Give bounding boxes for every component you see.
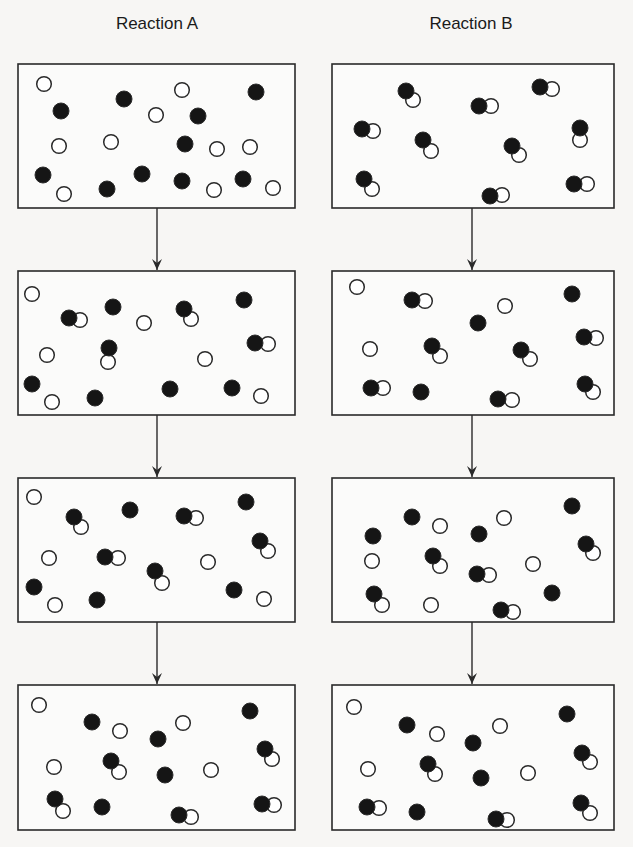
filled-atom-icon <box>157 767 173 783</box>
filled-atom-icon <box>413 384 429 400</box>
open-atom-icon <box>52 139 67 154</box>
filled-atom-icon <box>566 176 582 192</box>
filled-atom-icon <box>577 376 593 392</box>
filled-atom-icon <box>87 390 103 406</box>
filled-atom-icon <box>257 741 273 757</box>
open-atom-icon <box>175 83 190 98</box>
open-atom-icon <box>201 555 216 570</box>
open-atom-icon <box>137 316 152 331</box>
filled-atom-icon <box>177 136 193 152</box>
open-atom-icon <box>493 719 508 734</box>
filled-atom-icon <box>399 717 415 733</box>
filled-atom-icon <box>53 103 69 119</box>
filled-atom-icon <box>493 602 509 618</box>
filled-atom-icon <box>488 811 504 827</box>
filled-atom-icon <box>236 292 252 308</box>
open-atom-icon <box>47 760 62 775</box>
filled-atom-icon <box>471 526 487 542</box>
filled-atom-icon <box>425 548 441 564</box>
open-atom-icon <box>210 142 225 157</box>
filled-atom-icon <box>99 181 115 197</box>
filled-atom-icon <box>248 84 264 100</box>
open-atom-icon <box>365 554 380 569</box>
filled-atom-icon <box>572 120 588 136</box>
open-atom-icon <box>42 551 57 566</box>
filled-atom-icon <box>176 508 192 524</box>
filled-atom-icon <box>354 121 370 137</box>
filled-atom-icon <box>247 335 263 351</box>
filled-atom-icon <box>226 582 242 598</box>
filled-atom-icon <box>574 745 590 761</box>
filled-atom-icon <box>469 566 485 582</box>
open-atom-icon <box>37 77 52 92</box>
open-atom-icon <box>32 698 47 713</box>
filled-atom-icon <box>254 796 270 812</box>
open-atom-icon <box>505 393 520 408</box>
open-atom-icon <box>104 135 119 150</box>
filled-atom-icon <box>559 706 575 722</box>
filled-atom-icon <box>66 509 82 525</box>
filled-atom-icon <box>94 799 110 815</box>
filled-atom-icon <box>564 286 580 302</box>
filled-atom-icon <box>482 188 498 204</box>
filled-atom-icon <box>404 509 420 525</box>
filled-atom-icon <box>490 391 506 407</box>
filled-atom-icon <box>35 167 51 183</box>
filled-atom-icon <box>420 756 436 772</box>
filled-atom-icon <box>147 563 163 579</box>
filled-atom-icon <box>171 807 187 823</box>
filled-atom-icon <box>101 340 117 356</box>
open-atom-icon <box>347 700 362 715</box>
open-atom-icon <box>433 519 448 534</box>
open-atom-icon <box>497 511 512 526</box>
open-atom-icon <box>45 395 60 410</box>
open-atom-icon <box>350 280 365 295</box>
filled-atom-icon <box>473 770 489 786</box>
filled-atom-icon <box>97 549 113 565</box>
filled-atom-icon <box>174 173 190 189</box>
filled-atom-icon <box>176 301 192 317</box>
filled-atom-icon <box>162 381 178 397</box>
open-atom-icon <box>430 727 445 742</box>
open-atom-icon <box>266 181 281 196</box>
filled-atom-icon <box>89 592 105 608</box>
filled-atom-icon <box>224 380 240 396</box>
open-atom-icon <box>254 389 269 404</box>
filled-atom-icon <box>424 338 440 354</box>
filled-atom-icon <box>398 83 414 99</box>
open-atom-icon <box>363 342 378 357</box>
filled-atom-icon <box>105 299 121 315</box>
filled-atom-icon <box>465 735 481 751</box>
open-atom-icon <box>521 766 536 781</box>
filled-atom-icon <box>61 310 77 326</box>
filled-atom-icon <box>122 502 138 518</box>
filled-atom-icon <box>415 132 431 148</box>
filled-atom-icon <box>471 98 487 114</box>
open-atom-icon <box>204 763 219 778</box>
filled-atom-icon <box>504 138 520 154</box>
filled-atom-icon <box>366 586 382 602</box>
open-atom-icon <box>27 490 42 505</box>
open-atom-icon <box>243 140 258 155</box>
open-atom-icon <box>198 352 213 367</box>
filled-atom-icon <box>532 79 548 95</box>
open-atom-icon <box>25 287 40 302</box>
filled-atom-icon <box>573 795 589 811</box>
filled-atom-icon <box>359 799 375 815</box>
open-atom-icon <box>526 557 541 572</box>
filled-atom-icon <box>24 376 40 392</box>
filled-atom-icon <box>47 791 63 807</box>
filled-atom-icon <box>238 494 254 510</box>
open-atom-icon <box>498 299 513 314</box>
open-atom-icon <box>149 108 164 123</box>
panel-boxes <box>18 64 614 830</box>
open-atom-icon <box>257 592 272 607</box>
filled-atom-icon <box>26 579 42 595</box>
filled-atom-icon <box>578 536 594 552</box>
filled-atom-icon <box>235 171 251 187</box>
filled-atom-icon <box>576 329 592 345</box>
filled-atom-icon <box>470 315 486 331</box>
open-atom-icon <box>101 355 116 370</box>
open-atom-icon <box>48 598 63 613</box>
filled-atom-icon <box>116 91 132 107</box>
